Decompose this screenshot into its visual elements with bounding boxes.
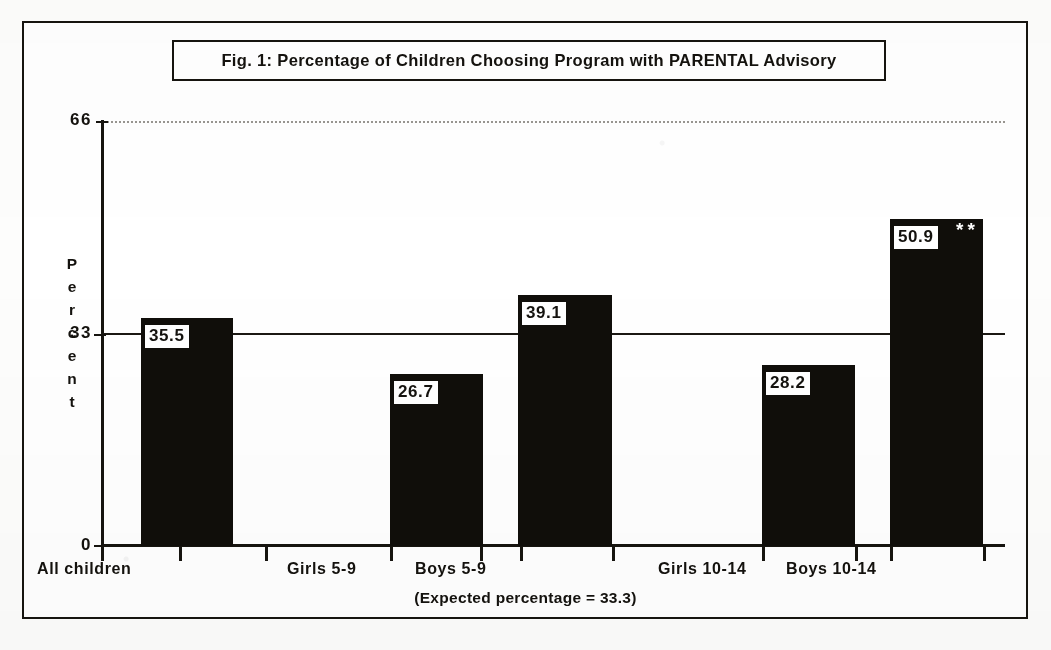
bar-value-label: 35.5 xyxy=(145,325,189,348)
bar-girls-10-14: 28.2 xyxy=(762,365,855,546)
y-axis-label-letter: e xyxy=(68,275,77,298)
x-tick-mark xyxy=(520,547,523,561)
y-tick-label-0: 0 xyxy=(48,535,92,555)
x-axis-label-girls-10-14: Girls 10-14 xyxy=(658,560,746,578)
y-axis-label-letter: n xyxy=(67,367,76,390)
y-tick-mark-33 xyxy=(94,334,106,336)
x-tick-mark xyxy=(612,547,615,561)
x-tick-mark xyxy=(855,547,858,561)
y-axis-label-letter: e xyxy=(68,344,77,367)
bar-boys-10-14: 50.9** xyxy=(890,219,983,546)
x-tick-mark xyxy=(265,547,268,561)
gridline-66-dotted xyxy=(104,121,1005,123)
x-tick-mark xyxy=(890,547,893,561)
y-axis-label-percent: P e r c e n t xyxy=(62,252,82,413)
x-tick-mark xyxy=(762,547,765,561)
bar-all-children: 35.5 xyxy=(141,318,233,546)
y-tick-mark-66 xyxy=(96,121,108,123)
x-tick-mark xyxy=(390,547,393,561)
significance-marker: ** xyxy=(956,221,979,239)
bar-value-label: 39.1 xyxy=(522,302,566,325)
y-tick-label-66: 66 xyxy=(48,110,92,130)
x-axis-label-boys-10-14: Boys 10-14 xyxy=(786,560,877,578)
screenshot-root: Fig. 1: Percentage of Children Choosing … xyxy=(0,0,1051,650)
y-axis-label-letter: P xyxy=(67,252,77,275)
bar-girls-5-9: 26.7 xyxy=(390,374,483,546)
y-tick-mark-0 xyxy=(94,545,106,547)
bar-value-label: 50.9 xyxy=(894,226,938,249)
x-axis-label-boys-5-9: Boys 5-9 xyxy=(415,560,487,578)
x-tick-mark xyxy=(101,547,104,561)
y-axis-label-letter: t xyxy=(69,390,74,413)
y-axis-label-letter: c xyxy=(68,321,77,344)
x-tick-mark xyxy=(983,547,986,561)
expected-percentage-note: (Expected percentage = 33.3) xyxy=(0,589,1051,607)
bar-boys-5-9: 39.1 xyxy=(518,295,612,546)
x-axis-label-girls-5-9: Girls 5-9 xyxy=(287,560,356,578)
bar-chart-plot: 66 33 0 P e r c e n t 35.526.739.128.250… xyxy=(0,0,1051,650)
x-tick-mark xyxy=(179,547,182,561)
y-axis-label-letter: r xyxy=(69,298,75,321)
x-tick-mark xyxy=(480,547,483,561)
bar-value-label: 26.7 xyxy=(394,381,438,404)
x-axis-label-all-children: All children xyxy=(37,560,131,578)
bar-value-label: 28.2 xyxy=(766,372,810,395)
